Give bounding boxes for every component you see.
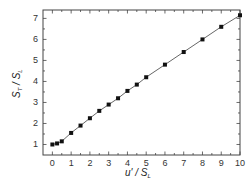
y-tick-label: 3 (33, 97, 38, 107)
y-tick-label: 1 (33, 139, 38, 149)
x-axis-label: u' / SL (125, 167, 151, 179)
chart: 012345678910 1234567 u' / SL ST / SL (0, 0, 246, 190)
x-tick-label: 3 (106, 158, 111, 168)
data-point-marker (163, 63, 167, 67)
x-tick-label: 8 (200, 158, 205, 168)
data-point-marker (125, 89, 129, 93)
x-tick-label: 1 (69, 158, 74, 168)
data-point-marker (135, 83, 139, 87)
data-point-marker (60, 139, 64, 143)
data-point-marker (97, 109, 101, 113)
data-point-marker (107, 103, 111, 107)
y-axis-label: ST / SL (11, 69, 23, 98)
data-point-marker (144, 75, 148, 79)
data-markers (50, 13, 242, 146)
y-axis-tick-labels: 1234567 (33, 13, 38, 149)
x-tick-label: 6 (162, 158, 167, 168)
x-tick-label: 0 (50, 158, 55, 168)
data-point-marker (219, 25, 223, 29)
y-tick-label: 2 (33, 118, 38, 128)
data-point-marker (50, 142, 54, 146)
x-tick-label: 10 (235, 158, 245, 168)
x-axis-ticks (52, 10, 240, 155)
data-point-marker (200, 37, 204, 41)
data-point-marker (79, 124, 83, 128)
data-point-marker (238, 13, 242, 17)
y-tick-label: 5 (33, 55, 38, 65)
data-point-marker (55, 141, 59, 145)
y-tick-label: 6 (33, 34, 38, 44)
data-point-marker (88, 116, 92, 120)
x-tick-label: 2 (87, 158, 92, 168)
data-point-marker (69, 131, 73, 135)
y-tick-label: 4 (33, 76, 38, 86)
y-tick-label: 7 (33, 13, 38, 23)
x-tick-label: 7 (181, 158, 186, 168)
data-point-marker (116, 96, 120, 100)
data-point-marker (182, 50, 186, 54)
x-tick-label: 9 (219, 158, 224, 168)
